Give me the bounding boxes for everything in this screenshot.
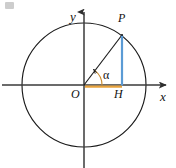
point-h-label: H — [114, 88, 123, 100]
point-p-marker — [121, 34, 123, 36]
y-axis-label: y — [70, 10, 76, 23]
angle-arc — [95, 71, 102, 85]
scan-artifact — [5, 2, 14, 9]
angle-alpha-label: α — [103, 69, 109, 81]
unit-circle-figure: y x P O H α — [0, 0, 176, 168]
origin-label: O — [71, 88, 80, 100]
point-p-label: P — [118, 12, 125, 24]
diagram-canvas — [0, 0, 176, 168]
x-axis-label: x — [160, 90, 166, 103]
